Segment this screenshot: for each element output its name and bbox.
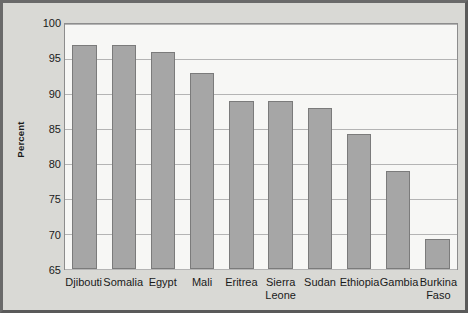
y-axis-tick-80: 80 bbox=[49, 159, 61, 170]
x-axis-label-sierra-leone: SierraLeone bbox=[261, 273, 300, 313]
gridline-65 bbox=[65, 269, 457, 270]
x-axis-label-ethiopia: Ethiopia bbox=[340, 273, 380, 313]
y-axis-tick-95: 95 bbox=[49, 53, 61, 64]
x-axis-label-line: Djibouti bbox=[64, 276, 103, 289]
x-axis-label-line: Sudan bbox=[300, 276, 339, 289]
y-axis-tick-labels: 65707580859095100 bbox=[29, 23, 61, 270]
x-axis-label-burkina-faso: BurkinaFaso bbox=[419, 273, 458, 313]
bar-somalia[interactable] bbox=[112, 45, 136, 269]
bar-sierra-leone[interactable] bbox=[268, 101, 292, 269]
bar-eritrea[interactable] bbox=[229, 101, 253, 269]
x-axis-label-line: Leone bbox=[261, 289, 300, 302]
bar-slot-gambia bbox=[379, 24, 418, 269]
bar-slot-mali bbox=[183, 24, 222, 269]
y-axis-tick-100: 100 bbox=[43, 18, 61, 29]
x-axis-label-egypt: Egypt bbox=[143, 273, 182, 313]
bar-slot-eritrea bbox=[222, 24, 261, 269]
x-axis-label-line: Ethiopia bbox=[340, 276, 380, 289]
x-axis-label-djibouti: Djibouti bbox=[64, 273, 103, 313]
bar-sudan[interactable] bbox=[308, 108, 332, 269]
x-axis-label-sudan: Sudan bbox=[300, 273, 339, 313]
x-axis-label-line: Faso bbox=[419, 289, 458, 302]
bar-slot-sudan bbox=[300, 24, 339, 269]
y-axis-tick-85: 85 bbox=[49, 123, 61, 134]
bar-series bbox=[65, 24, 457, 269]
y-axis-tick-90: 90 bbox=[49, 88, 61, 99]
y-axis-title-text: Percent bbox=[15, 121, 26, 157]
bar-ethiopia[interactable] bbox=[347, 134, 371, 269]
x-axis-label-line: Eritrea bbox=[222, 276, 261, 289]
y-axis-tick-70: 70 bbox=[49, 229, 61, 240]
y-axis-tick-75: 75 bbox=[49, 194, 61, 205]
x-axis-label-somalia: Somalia bbox=[103, 273, 143, 313]
bar-slot-sierra-leone bbox=[261, 24, 300, 269]
bar-djibouti[interactable] bbox=[72, 45, 96, 269]
bar-egypt[interactable] bbox=[151, 52, 175, 269]
x-axis-label-line: Burkina bbox=[419, 276, 458, 289]
x-axis-label-line: Mali bbox=[182, 276, 221, 289]
bar-slot-djibouti bbox=[65, 24, 104, 269]
bar-slot-burkina-faso bbox=[418, 24, 457, 269]
x-axis-label-line: Sierra bbox=[261, 276, 300, 289]
bar-slot-somalia bbox=[104, 24, 143, 269]
x-axis-label-mali: Mali bbox=[182, 273, 221, 313]
bar-slot-ethiopia bbox=[339, 24, 378, 269]
x-axis-label-line: Somalia bbox=[103, 276, 143, 289]
x-axis-label-line: Egypt bbox=[143, 276, 182, 289]
y-axis-tick-65: 65 bbox=[49, 265, 61, 276]
x-axis-label-gambia: Gambia bbox=[379, 273, 418, 313]
x-axis-tick-labels: DjiboutiSomaliaEgyptMaliEritreaSierraLeo… bbox=[64, 273, 458, 313]
bar-gambia[interactable] bbox=[386, 171, 410, 269]
y-axis-title: Percent bbox=[12, 3, 28, 276]
bar-slot-egypt bbox=[143, 24, 182, 269]
plot-area bbox=[64, 23, 458, 270]
chart-figure: Percent 65707580859095100 DjiboutiSomali… bbox=[0, 0, 468, 313]
bar-burkina-faso[interactable] bbox=[425, 239, 449, 269]
bar-mali[interactable] bbox=[190, 73, 214, 269]
x-axis-label-line: Gambia bbox=[379, 276, 418, 289]
x-axis-label-eritrea: Eritrea bbox=[222, 273, 261, 313]
